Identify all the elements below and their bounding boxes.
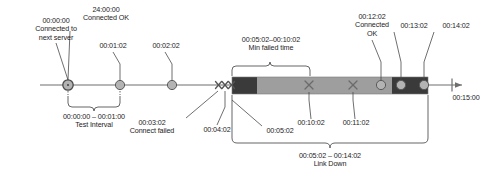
label-start-event: 00:00:00 Connected to next server xyxy=(35,17,77,42)
label-test-interval-text: Test Interval xyxy=(63,121,125,129)
label-min-failed-time-text: Min failed time xyxy=(242,44,300,52)
label-dot-14-text: 00:14:02 xyxy=(442,22,469,30)
brace-min-failed-time xyxy=(232,62,310,76)
timeline-diagram: 00:00:00 Connected to next server 24:00:… xyxy=(0,0,487,180)
label-start-event-line2: next server xyxy=(35,34,77,42)
label-connect-failed-text: Connect failed xyxy=(130,127,175,135)
label-x-marker-5: 00:11:02 xyxy=(343,119,370,127)
label-x-marker-3: 00:05:02 xyxy=(266,127,293,135)
circle-00-14-02-icon xyxy=(419,80,428,89)
label-connected-ok-2: 00:12:02 Connected OK xyxy=(355,13,389,38)
bar-segment-dark-head xyxy=(232,77,257,94)
label-tick-1-text: 00:01:02 xyxy=(99,42,126,50)
label-x-marker-5-text: 00:11:02 xyxy=(343,119,370,127)
label-x-marker-3-text: 00:05:02 xyxy=(266,127,293,135)
label-min-failed-time: 00:05:02–00:10:02 Min failed time xyxy=(242,36,300,53)
circle-00-12-02-icon xyxy=(376,80,385,89)
circle-00-01-02-icon xyxy=(115,80,124,89)
leader-lines-bottom xyxy=(186,91,355,126)
label-connect-failed: 00:03:02 Connect failed xyxy=(130,119,175,136)
brace-link-down xyxy=(232,95,428,148)
label-link-down-text: Link Down xyxy=(299,160,361,168)
label-tick-2-text: 00:02:02 xyxy=(152,42,179,50)
label-x-marker-4-text: 00:10:02 xyxy=(297,119,324,127)
label-x-marker-4: 00:10:02 xyxy=(297,119,324,127)
label-dot-13: 00:13:02 xyxy=(400,22,427,30)
label-tick-1: 00:01:02 xyxy=(99,42,126,50)
label-x-marker-2-text: 00:04:02 xyxy=(203,126,230,134)
label-end-tick-text: 00:15:00 xyxy=(452,94,479,102)
axis-arrow-icon xyxy=(455,82,462,88)
circle-00-02-02-icon xyxy=(167,80,176,89)
label-tick-2: 00:02:02 xyxy=(152,42,179,50)
label-dot-14: 00:14:02 xyxy=(442,22,469,30)
label-retry-event-status: Connected OK xyxy=(83,14,129,22)
brace-test-interval xyxy=(68,91,120,111)
label-x-marker-2: 00:04:02 xyxy=(203,126,230,134)
circle-00-13-02-icon xyxy=(396,80,405,89)
label-connected-ok-2-line2: OK xyxy=(355,30,389,38)
label-link-down: 00:05:02 – 00:14:02 Link Down xyxy=(299,152,361,169)
label-end-tick: 00:15:00 xyxy=(452,94,479,102)
label-retry-event: 24:00:00 Connected OK xyxy=(83,6,129,23)
label-test-interval: 00:00:00 – 00:01:00 Test Interval xyxy=(63,113,125,130)
label-dot-13-text: 00:13:02 xyxy=(400,22,427,30)
